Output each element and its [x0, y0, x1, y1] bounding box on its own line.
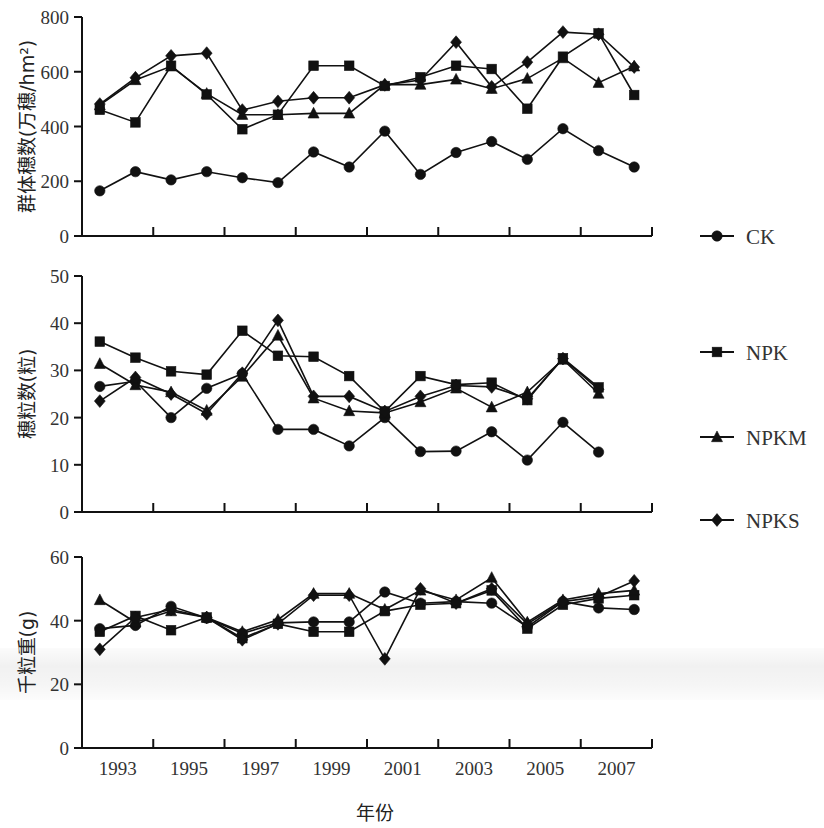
circle-marker	[593, 603, 603, 613]
square-marker	[131, 353, 141, 363]
multi-panel-line-chart-figure: 0200400600800群体穗数(万穗/hm²)01020304050穗粒数(…	[0, 0, 824, 828]
y-tick-label: 400	[41, 117, 70, 138]
y-tick-label: 20	[50, 408, 69, 429]
diamond-marker	[308, 589, 319, 602]
circle-marker	[344, 162, 354, 172]
circle-marker	[201, 383, 211, 393]
square-marker	[344, 61, 354, 71]
legend: CKNPKNPKMNPKS	[700, 225, 807, 533]
chart-panel-bottom: 0204060千粒重(g)	[16, 547, 652, 759]
square-marker	[273, 351, 283, 361]
x-axis-labels: 19931995199719992001200320052007年份	[99, 758, 636, 824]
diamond-marker	[308, 91, 319, 104]
y-tick-label: 40	[50, 313, 69, 334]
square-marker	[487, 64, 497, 74]
square-marker	[202, 370, 212, 380]
triangle-marker	[486, 572, 497, 583]
y-tick-label: 30	[50, 360, 69, 381]
y-tick-label: 0	[60, 502, 70, 523]
circle-marker	[308, 424, 318, 434]
diamond-marker	[629, 574, 640, 587]
circle-marker	[95, 186, 105, 196]
series-markers-NPK	[95, 29, 639, 134]
series-markers-CK	[95, 369, 604, 466]
square-marker	[131, 118, 141, 128]
circle-marker	[130, 166, 140, 176]
chart-panel-top: 0200400600800群体穗数(万穗/hm²)	[16, 7, 652, 247]
y-tick-label: 600	[41, 62, 70, 83]
circle-marker	[558, 123, 568, 133]
series-markers-CK	[95, 123, 640, 196]
y-axis-title: 群体穗数(万穗/hm²)	[16, 40, 38, 213]
legend-item-NPKM[interactable]: NPKM	[700, 426, 807, 450]
x-tick-label: 1993	[99, 758, 137, 779]
x-axis-title: 年份	[356, 802, 394, 824]
series-markers-NPKS	[94, 574, 639, 665]
x-tick-label: 2003	[455, 758, 493, 779]
circle-marker	[273, 424, 283, 434]
circle-marker	[486, 598, 496, 608]
square-marker	[166, 367, 176, 377]
y-tick-label: 200	[41, 171, 70, 192]
chart-canvas: 0200400600800群体穗数(万穗/hm²)01020304050穗粒数(…	[0, 0, 824, 828]
y-tick-label: 0	[60, 226, 70, 247]
series-line-NPK	[100, 33, 634, 129]
diamond-marker	[344, 91, 355, 104]
square-marker	[344, 627, 354, 637]
triangle-marker	[522, 73, 533, 84]
series-line-CK	[100, 129, 634, 191]
legend-item-CK[interactable]: CK	[700, 225, 775, 249]
square-marker	[344, 371, 354, 381]
square-marker	[238, 124, 248, 134]
y-tick-label: 60	[50, 547, 69, 568]
circle-marker	[486, 427, 496, 437]
square-marker	[309, 61, 319, 71]
x-tick-label: 1995	[170, 758, 208, 779]
circle-marker	[522, 455, 532, 465]
y-tick-label: 10	[50, 455, 69, 476]
square-marker	[416, 371, 426, 381]
circle-marker	[308, 617, 318, 627]
series-markers-NPK	[95, 586, 639, 643]
square-marker	[95, 337, 105, 347]
x-tick-label: 1999	[312, 758, 350, 779]
legend-label-NPKM: NPKM	[746, 426, 807, 450]
circle-marker	[380, 587, 390, 597]
triangle-marker	[272, 329, 283, 340]
circle-marker	[344, 617, 354, 627]
y-tick-label: 800	[41, 7, 70, 28]
circle-marker	[201, 166, 211, 176]
circle-marker	[308, 147, 318, 157]
circle-marker	[95, 381, 105, 391]
diamond-marker	[379, 652, 390, 665]
series-line-NPKM	[100, 58, 634, 115]
legend-item-NPK[interactable]: NPK	[700, 341, 788, 365]
circle-marker	[344, 441, 354, 451]
x-tick-label: 2005	[526, 758, 564, 779]
circle-marker	[558, 417, 568, 427]
legend-label-NPK: NPK	[746, 341, 788, 365]
circle-marker	[451, 147, 461, 157]
circle-marker	[486, 136, 496, 146]
circle-marker	[629, 604, 639, 614]
circle-marker	[273, 177, 283, 187]
square-marker	[238, 326, 248, 336]
legend-label-CK: CK	[746, 225, 775, 249]
series-line-NPK	[100, 590, 634, 638]
legend-item-NPKS[interactable]: NPKS	[700, 509, 800, 533]
square-marker	[166, 625, 176, 635]
circle-marker	[166, 412, 176, 422]
chart-panel-middle: 01020304050穗粒数(粒)	[16, 266, 652, 523]
square-marker	[629, 90, 639, 100]
circle-marker	[380, 126, 390, 136]
circle-marker	[593, 447, 603, 457]
circle-marker	[451, 446, 461, 456]
diamond-marker	[344, 390, 355, 403]
square-marker	[416, 600, 426, 610]
circle-marker	[415, 169, 425, 179]
circle-marker	[166, 175, 176, 185]
square-marker	[95, 627, 105, 637]
series-line-NPKM	[100, 578, 634, 632]
diamond-marker	[201, 47, 212, 60]
diamond-marker	[712, 514, 723, 527]
